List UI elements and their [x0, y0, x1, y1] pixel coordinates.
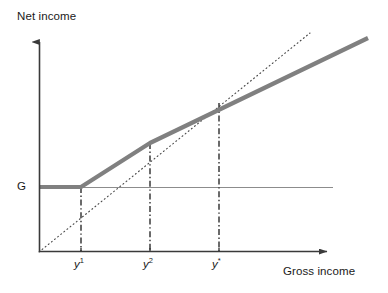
x-tick-label-ystar-superscript: *	[218, 256, 221, 265]
guarantee-level-label: G	[17, 180, 26, 192]
y-axis-title: Net income	[17, 10, 76, 22]
x-axis-title: Gross income	[283, 265, 355, 277]
x-tick-label-y1: y1	[74, 258, 84, 270]
x-tick-label-ystar: y*	[212, 258, 221, 270]
x-tick-label-y2-superscript: 2	[149, 256, 153, 265]
net-income-chart: Net income Gross income G y1 y2 y*	[0, 0, 388, 293]
chart-background	[0, 0, 388, 293]
x-tick-label-y1-superscript: 1	[80, 256, 84, 265]
x-tick-label-y2: y2	[143, 258, 153, 270]
chart-plot-area	[0, 0, 388, 293]
